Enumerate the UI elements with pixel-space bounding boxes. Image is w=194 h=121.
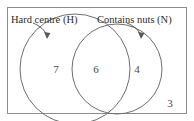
region-count-hard-centre-only: 7 bbox=[53, 63, 59, 75]
venn-diagram-canvas: Hard centre (H) Contains nuts (N) 7 6 4 … bbox=[0, 0, 194, 121]
region-count-contains-nuts-only: 4 bbox=[134, 63, 140, 75]
set-label-hard-centre: Hard centre (H) bbox=[11, 14, 78, 26]
venn-diagram-screenshot: Hard centre (H) Contains nuts (N) 7 6 4 … bbox=[0, 0, 194, 121]
set-label-contains-nuts: Contains nuts (N) bbox=[97, 14, 172, 26]
region-count-intersection: 6 bbox=[93, 63, 99, 75]
region-count-outside: 3 bbox=[167, 97, 173, 109]
